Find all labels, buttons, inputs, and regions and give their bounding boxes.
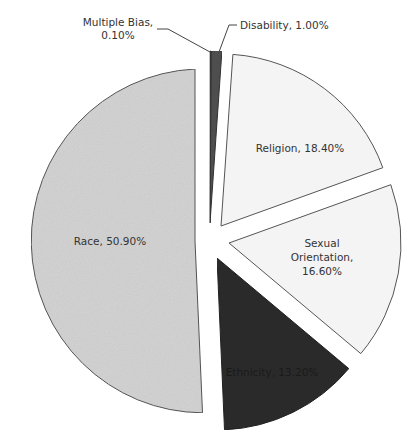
label-race: Race, 50.90% [74,235,146,247]
leader-line-multiple-bias [157,29,210,52]
label-sexual-orientation-3: 16.60% [302,265,342,277]
pie-chart: Race, 50.90% Religion, 18.40% Sexual Ori… [0,0,417,435]
label-sexual-orientation-2: Orientation, [291,251,354,263]
label-multiple-bias-2: 0.10% [101,29,134,41]
label-religion: Religion, 18.40% [256,142,345,154]
label-sexual-orientation-1: Sexual [304,237,339,249]
leader-line-disability [219,25,237,52]
label-disability: Disability, 1.00% [240,19,329,31]
slice-disability [210,51,222,223]
label-ethnicity: Ethnicity, 13.20% [226,366,319,378]
label-multiple-bias-1: Multiple Bias, [83,16,153,28]
